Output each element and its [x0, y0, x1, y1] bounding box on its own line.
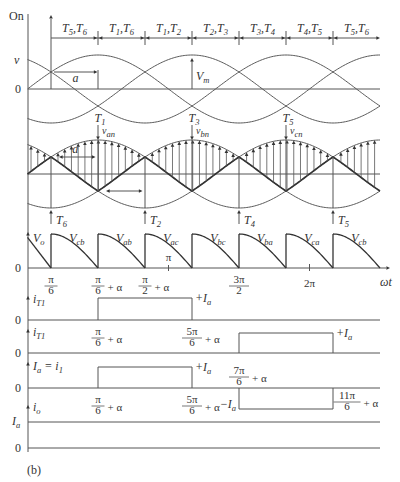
- arrow-right-icon: [386, 266, 390, 270]
- subscript: 6: [130, 27, 135, 37]
- tick-label: π: [166, 251, 172, 263]
- thyristor-label: T5: [338, 213, 349, 229]
- boundary-arrow-icon: [282, 36, 286, 40]
- zero-label: 0: [15, 82, 21, 96]
- tick-label: π6+ α: [92, 325, 123, 348]
- conduction-interval-label: T5,T6: [62, 21, 88, 37]
- arrow-up-icon: [190, 58, 194, 62]
- arrow-right-icon: [139, 189, 143, 193]
- arrow-down-icon: [96, 136, 100, 140]
- time-axis-label: ωt: [380, 275, 392, 289]
- line-voltage-label: Vcb: [69, 231, 84, 247]
- boundary-arrow-icon: [99, 36, 103, 40]
- tick-label-denominator: 6: [236, 375, 242, 387]
- arrow-up-icon: [143, 210, 147, 214]
- subscript: 2: [157, 219, 162, 229]
- subscript: o: [40, 237, 44, 247]
- zero-label: 0: [15, 261, 21, 275]
- arrow-up-icon: [49, 210, 53, 214]
- phase-voltage-label: van: [102, 125, 115, 139]
- subscript: bn: [200, 129, 209, 139]
- vm-label: Vm: [196, 69, 209, 85]
- tick-label: 5π6+ α: [182, 325, 220, 348]
- y-axis-arrow-icon: [26, 232, 30, 236]
- subscript: cb: [359, 237, 367, 247]
- output-voltage-panel: Vo0ωtVcbVabVacVbcVbaVcaVcbπ6π6+ απ2+ απ3…: [15, 231, 393, 296]
- subscript: 4: [271, 27, 276, 37]
- tick-label: 2π: [304, 277, 316, 289]
- tick-label-denominator: 6: [344, 400, 350, 412]
- level-axis-label: Ia: [11, 414, 20, 430]
- boundary-arrow-icon: [141, 36, 145, 40]
- current-label: io: [33, 400, 41, 416]
- three-phase-converter-waveform-diagram: OnT5,T6T1,T6T1,T2T2,T3T3,T4T4,T5T5,T6v0a…: [0, 0, 400, 482]
- tick-label-denominator: 6: [95, 336, 101, 348]
- current-pulse: [98, 367, 192, 388]
- subscript: a: [207, 366, 211, 376]
- arrow-down-icon: [284, 136, 288, 140]
- subscript: ca: [312, 237, 320, 247]
- tick-label-suffix: + α: [205, 401, 220, 413]
- subscript: a: [232, 403, 236, 413]
- boundary-arrow-icon: [329, 36, 333, 40]
- phase-voltage-label: vcn: [290, 125, 302, 139]
- arrow-right-icon: [92, 155, 96, 159]
- tick-label-suffix: + α: [108, 401, 123, 413]
- current-label: iT1: [33, 292, 45, 308]
- subscript: a: [207, 297, 211, 307]
- zero-label: 0: [15, 313, 21, 327]
- boundary-arrow-icon: [188, 36, 192, 40]
- subscript: 6: [83, 27, 88, 37]
- y-axis-arrow-icon: [26, 329, 30, 333]
- subscript: 3: [223, 27, 228, 37]
- conduction-interval-label: T4,T5: [297, 21, 322, 37]
- subscript: a: [348, 332, 352, 342]
- pulse-level-label: −Ia: [220, 397, 236, 413]
- subscript: 6: [63, 219, 68, 229]
- label-text: = i: [41, 359, 58, 373]
- tick-label: 11π6+ α: [334, 389, 379, 412]
- arrow-left-icon: [106, 189, 110, 193]
- tick-label: 3π2: [229, 273, 249, 296]
- subscript: T1: [36, 331, 45, 341]
- boundary-arrow-icon: [334, 36, 338, 40]
- tick-label: π6+ α: [92, 393, 123, 416]
- arrow-down-icon: [190, 136, 194, 140]
- boundary-arrow-icon: [94, 36, 98, 40]
- zero-label: 0: [15, 441, 21, 455]
- tick-label-denominator: 6: [189, 336, 195, 348]
- thyristor-label: T4: [244, 213, 256, 229]
- subscript: cn: [294, 129, 302, 139]
- subscript: 4: [251, 219, 256, 229]
- arrow-right-icon: [94, 70, 98, 74]
- boundary-arrow-icon: [146, 36, 150, 40]
- tick-label-suffix: + α: [155, 281, 170, 293]
- subscript: 6: [365, 27, 370, 37]
- y-axis-arrow-icon: [26, 405, 30, 409]
- current-pulse: [98, 298, 192, 320]
- subscript: m: [203, 75, 209, 85]
- y-axis-arrow-icon: [26, 362, 30, 366]
- conduction-interval-label: T1,T6: [109, 21, 135, 37]
- line-voltage-label: Vcb: [351, 231, 366, 247]
- conduction-interval-label: T1,T2: [156, 21, 182, 37]
- tick-label-suffix: + α: [205, 333, 220, 345]
- arrow-up-icon: [331, 210, 335, 214]
- current-pulse: [239, 388, 333, 409]
- boundary-arrow-icon: [240, 36, 244, 40]
- subscript: ac: [171, 237, 179, 247]
- tick-label-suffix: + α: [252, 372, 267, 384]
- line-voltage-label: Vbc: [210, 231, 226, 247]
- subscript: ab: [123, 237, 132, 247]
- line-voltage-label: Vca: [304, 231, 319, 247]
- subscript: cb: [77, 237, 85, 247]
- thyristor-label: T6: [56, 213, 68, 229]
- phase-voltage-panel: v0aVm: [14, 53, 380, 123]
- y-axis-label: Vo: [33, 231, 45, 247]
- conduction-interval-label: T2,T3: [203, 21, 228, 37]
- subscript: 1: [59, 365, 63, 375]
- subscript: bc: [218, 237, 226, 247]
- zero-label: 0: [15, 346, 21, 360]
- firing-panel: T1vanT3vbnT5vcnT6T2T4T5a: [28, 111, 381, 229]
- tick-label: π6+ α: [92, 273, 123, 296]
